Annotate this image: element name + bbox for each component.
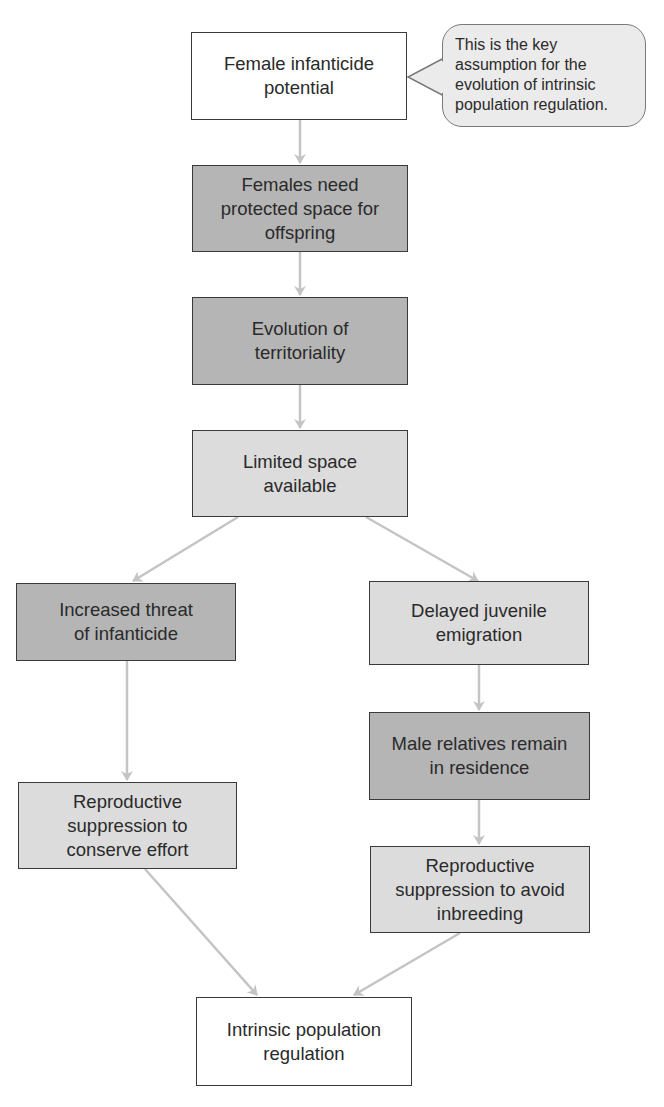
arrow-n8-n10 bbox=[145, 869, 257, 995]
node-increased-infanticide-threat: Increased threat of infanticide bbox=[16, 583, 236, 661]
node-suppression-conserve-effort: Reproductive suppression to conserve eff… bbox=[18, 782, 237, 869]
node-male-relatives: Male relatives remain in residence bbox=[369, 712, 590, 800]
arrow-n4-n5 bbox=[133, 517, 238, 581]
callout-text: This is the key assumption for the evolu… bbox=[455, 35, 637, 115]
node-female-infanticide-potential: Female infanticide potential bbox=[191, 32, 407, 120]
callout-tail bbox=[408, 58, 444, 96]
assumption-callout: This is the key assumption for the evolu… bbox=[442, 24, 646, 127]
node-delayed-emigration: Delayed juvenile emigration bbox=[369, 581, 589, 665]
arrow-n9-n10 bbox=[354, 933, 460, 995]
node-territoriality: Evolution of territoriality bbox=[192, 297, 408, 385]
node-suppression-avoid-inbreeding: Reproductive suppression to avoid inbree… bbox=[370, 846, 590, 933]
node-limited-space: Limited space available bbox=[192, 430, 408, 517]
arrow-n4-n6 bbox=[366, 517, 478, 581]
node-intrinsic-regulation: Intrinsic population regulation bbox=[196, 997, 412, 1086]
node-protected-space: Females need protected space for offspri… bbox=[192, 165, 408, 252]
